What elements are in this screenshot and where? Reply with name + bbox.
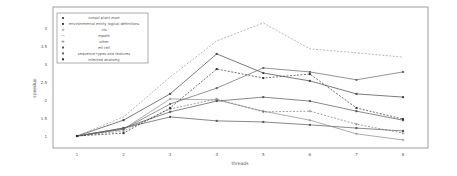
- legend-label: sequence types and features: [78, 52, 130, 56]
- legend-label: cfs: [101, 28, 106, 32]
- data-point: [309, 71, 311, 73]
- data-point: [216, 53, 218, 55]
- data-point: [169, 103, 171, 105]
- legend-label: consol plant mart: [88, 16, 120, 20]
- data-point: [309, 80, 311, 82]
- x-axis-label: threads: [231, 161, 249, 166]
- legend: consol plant martenvironmental entity lo…: [57, 13, 148, 63]
- data-point: [216, 87, 218, 89]
- legend-marker-icon: [62, 52, 64, 54]
- data-point: [402, 71, 404, 73]
- y-tick-label: 1: [44, 134, 47, 139]
- data-point: [309, 100, 311, 102]
- data-point: [402, 130, 404, 132]
- data-point: [262, 77, 264, 79]
- data-point: [123, 132, 125, 134]
- data-point: [355, 107, 357, 109]
- data-point: [355, 79, 357, 81]
- data-point: [355, 127, 357, 129]
- data-point: [309, 124, 311, 126]
- data-point: [76, 135, 78, 137]
- x-tick-label: 3: [169, 152, 172, 157]
- data-point: [123, 128, 125, 130]
- y-tick-label: 3.5: [41, 44, 48, 49]
- data-point: [216, 100, 218, 102]
- data-point: [262, 121, 264, 123]
- y-tick-label: 1.5: [41, 116, 48, 121]
- y-tick-label: 2.5: [41, 80, 48, 85]
- legend-label: infected anatomy: [88, 58, 121, 62]
- data-point: [309, 73, 311, 75]
- legend-label: environmental entity logical definitions: [69, 22, 140, 26]
- legend-label: mpath: [98, 34, 110, 38]
- line-chart: 11.522.533.54 12345678 speedup threads c…: [0, 0, 457, 176]
- data-point: [402, 96, 404, 98]
- y-axis: 11.522.533.54: [41, 26, 48, 139]
- legend-label: other: [99, 40, 109, 44]
- x-tick-label: 4: [215, 152, 218, 157]
- data-point: [169, 107, 171, 109]
- x-tick-label: 5: [262, 152, 265, 157]
- data-point: [402, 118, 404, 120]
- legend-marker-icon: [62, 58, 64, 60]
- y-tick-label: 2: [44, 98, 47, 103]
- data-point: [355, 110, 357, 112]
- x-tick-label: 8: [402, 152, 405, 157]
- data-point: [262, 72, 264, 74]
- x-tick-label: 2: [122, 152, 125, 157]
- data-point: [262, 96, 264, 98]
- y-tick-label: 3: [44, 62, 47, 67]
- x-tick-label: 1: [76, 152, 79, 157]
- y-tick-label: 4: [44, 26, 47, 31]
- data-point: [216, 120, 218, 122]
- legend-item: environmental entity logical definitions: [62, 22, 139, 26]
- data-point: [123, 119, 125, 121]
- data-point: [169, 93, 171, 95]
- legend-marker-icon: [62, 17, 64, 19]
- data-point: [262, 67, 264, 69]
- legend-marker-icon: [62, 23, 64, 25]
- legend-label: mf cell: [98, 46, 110, 50]
- data-point: [169, 116, 171, 118]
- y-axis-label: speedup: [32, 78, 37, 97]
- x-tick-label: 6: [309, 152, 312, 157]
- data-point: [355, 93, 357, 95]
- data-point: [169, 111, 171, 113]
- x-tick-label: 7: [355, 152, 358, 157]
- legend-marker-icon: [62, 47, 64, 49]
- x-axis: 12345678: [76, 152, 405, 157]
- data-point: [216, 68, 218, 70]
